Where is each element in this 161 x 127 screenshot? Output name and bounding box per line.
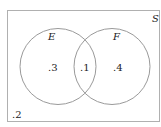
- set-e-label: E: [47, 31, 56, 42]
- venn-diagram: S E F .3 .1 .4 .2: [0, 0, 161, 127]
- universe-label: S: [152, 13, 159, 24]
- f-only-value: .4: [113, 62, 123, 73]
- intersection-value: .1: [80, 62, 90, 73]
- e-only-value: .3: [48, 62, 58, 73]
- set-f-label: F: [112, 31, 121, 42]
- outside-value: .2: [12, 109, 22, 120]
